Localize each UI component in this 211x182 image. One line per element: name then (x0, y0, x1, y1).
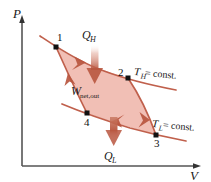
isotherm-low-const-text: = const. (163, 119, 196, 133)
heat-in-arrow-shaft (91, 44, 99, 70)
state-label-3: 3 (154, 137, 160, 149)
heat-out-label-group: Q L (104, 149, 117, 165)
state-point-2-marker (126, 76, 131, 81)
pv-diagram-figure: P V 1 2 3 4 Q H Q L W net,out T H = cons… (0, 0, 211, 182)
state-point-4-marker (85, 111, 90, 116)
volume-axis-label: V (190, 168, 200, 182)
heat-out-arrowhead (106, 130, 123, 146)
isotherm-high-label-group: T H = const. (133, 65, 177, 84)
state-point-1-marker (54, 45, 59, 50)
state-label-4: 4 (84, 116, 90, 128)
isotherm-high-const-text: = const. (145, 67, 178, 81)
pv-diagram-canvas: P V 1 2 3 4 Q H Q L W net,out T H = cons… (0, 0, 211, 182)
heat-in-subscript: H (89, 35, 97, 44)
state-label-2: 2 (118, 66, 124, 78)
work-out-subscript: net,out (80, 92, 99, 100)
pressure-axis-label: P (12, 6, 21, 21)
heat-in-label-group: Q H (82, 28, 97, 44)
state-label-1: 1 (57, 31, 63, 43)
heat-out-subscript: L (111, 156, 117, 165)
